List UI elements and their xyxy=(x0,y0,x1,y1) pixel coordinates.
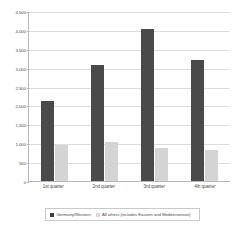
legend-swatch-icon xyxy=(96,213,100,217)
x-axis-tick-labels: 1st quarter2nd quarter3rd quarter4th qua… xyxy=(28,184,230,190)
y-axis-tickmark xyxy=(27,182,30,183)
y-axis-tick-label: 4,500 xyxy=(16,10,27,15)
bar[interactable] xyxy=(41,101,54,181)
plot-wrapper: 05001,0001,5002,0002,5003,0003,5004,0004… xyxy=(0,0,241,204)
y-axis-tick-label: 1,500 xyxy=(16,123,27,128)
chart-legend: Germany/Western All others (includes Eas… xyxy=(45,208,200,221)
bar[interactable] xyxy=(55,145,68,181)
x-axis-tick-label: 2nd quarter xyxy=(79,184,130,190)
bar[interactable] xyxy=(205,150,218,181)
bar[interactable] xyxy=(141,29,154,181)
legend-label: All others (includes Eastern and Mediter… xyxy=(102,212,190,217)
bar-group xyxy=(180,12,230,181)
bar-group xyxy=(130,12,180,181)
x-axis-tick-label: 1st quarter xyxy=(28,184,79,190)
y-axis-tick-label: 4,000 xyxy=(16,28,27,33)
bar[interactable] xyxy=(91,65,104,181)
y-axis-tick-labels: 05001,0001,5002,0002,5003,0003,5004,0004… xyxy=(4,12,26,182)
legend-item-germany-western[interactable]: Germany/Western xyxy=(50,212,91,217)
x-axis-tick-label: 4th quarter xyxy=(180,184,231,190)
y-axis-tick-label: 500 xyxy=(19,161,26,166)
x-axis-tick-label: 3rd quarter xyxy=(129,184,180,190)
bars-layer xyxy=(29,12,230,181)
bar[interactable] xyxy=(191,60,204,181)
y-axis-tick-label: 1,000 xyxy=(16,142,27,147)
legend-label: Germany/Western xyxy=(57,212,91,217)
plot-area xyxy=(28,12,230,182)
y-axis-tick-label: 2,000 xyxy=(16,104,27,109)
legend-item-all-others[interactable]: All others (includes Eastern and Mediter… xyxy=(96,212,195,217)
y-axis-tick-label: 3,000 xyxy=(16,66,27,71)
bar[interactable] xyxy=(105,142,118,181)
bar-chart: 05001,0001,5002,0002,5003,0003,5004,0004… xyxy=(0,0,241,238)
y-axis-tick-label: 3,500 xyxy=(16,47,27,52)
bar[interactable] xyxy=(155,148,168,181)
bar-group xyxy=(29,12,79,181)
y-axis-tick-label: 2,500 xyxy=(16,85,27,90)
bar-group xyxy=(79,12,129,181)
legend-swatch-icon xyxy=(50,213,54,217)
